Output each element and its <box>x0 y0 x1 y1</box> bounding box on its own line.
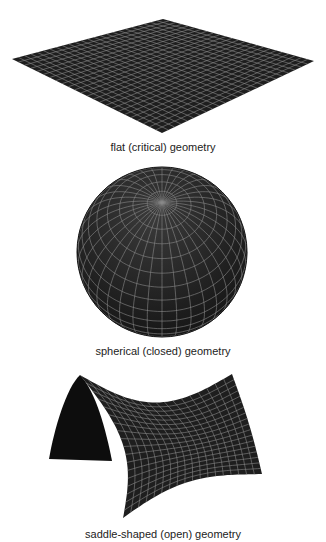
saddle-surface <box>49 374 262 518</box>
flat-plane-surface <box>12 19 314 133</box>
spherical-geometry-caption: spherical (closed) geometry <box>0 344 326 358</box>
geometry-illustrations <box>0 0 326 542</box>
flat-geometry-caption: flat (critical) geometry <box>0 140 326 154</box>
sphere-surface <box>77 167 247 337</box>
saddle-geometry-caption: saddle-shaped (open) geometry <box>0 527 326 541</box>
